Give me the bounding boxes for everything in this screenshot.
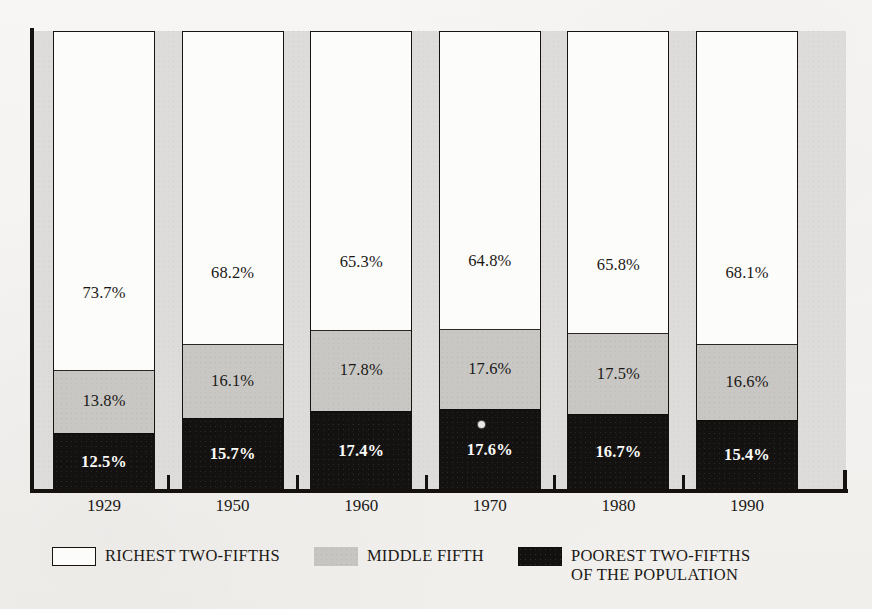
bar-segment-poorest-two-fifths-1990[interactable]: 15.4% <box>697 420 797 490</box>
bar-1980[interactable]: 65.8%17.5%16.7% <box>567 31 669 490</box>
bar-segment-poorest-two-fifths-1929[interactable]: 12.5% <box>54 433 154 490</box>
bar-value-label-richest-two-fifths-1929: 73.7% <box>82 285 125 302</box>
bar-value-label-poorest-two-fifths-1970: 17.6% <box>467 442 513 459</box>
year-label-1970: 1970 <box>450 496 530 516</box>
bar-value-label-poorest-two-fifths-1950: 15.7% <box>210 446 256 463</box>
x-axis-line <box>30 489 848 493</box>
bar-segment-poorest-two-fifths-1950[interactable]: 15.7% <box>183 418 283 490</box>
plot-area: 73.7%13.8%12.5%68.2%16.1%15.7%65.3%17.8%… <box>34 31 846 490</box>
bar-value-label-richest-two-fifths-1970: 64.8% <box>468 253 511 270</box>
bar-1970[interactable]: 64.8%17.6%17.6% <box>439 31 541 490</box>
bar-1929[interactable]: 73.7%13.8%12.5% <box>53 31 155 490</box>
legend-swatch-middle-icon <box>314 547 358 566</box>
bar-segment-middle-fifth-1980[interactable]: 17.5% <box>568 333 668 413</box>
bar-segment-richest-two-fifths-1950[interactable]: 68.2% <box>183 32 283 344</box>
year-label-1950: 1950 <box>193 496 273 516</box>
legend-item-middle-fifth[interactable]: MIDDLE FIFTH <box>314 546 484 566</box>
legend-label-poorest: POOREST TWO-FIFTHS OF THE POPULATION <box>571 546 750 585</box>
bar-value-label-poorest-two-fifths-1990: 15.4% <box>724 447 770 464</box>
bar-1990[interactable]: 68.1%16.6%15.4% <box>696 31 798 490</box>
bar-1950[interactable]: 68.2%16.1%15.7% <box>182 31 284 490</box>
year-label-1960: 1960 <box>321 496 401 516</box>
y-axis-line <box>30 28 34 493</box>
x-axis-tick-5 <box>682 475 685 490</box>
bar-value-label-middle-fifth-1970: 17.6% <box>468 361 511 378</box>
bar-segment-middle-fifth-1929[interactable]: 13.8% <box>54 370 154 433</box>
bar-value-label-middle-fifth-1950: 16.1% <box>211 373 254 390</box>
bar-value-label-middle-fifth-1980: 17.5% <box>597 366 640 383</box>
bar-segment-middle-fifth-1970[interactable]: 17.6% <box>440 329 540 410</box>
bar-segment-richest-two-fifths-1929[interactable]: 73.7% <box>54 32 154 370</box>
bar-value-label-richest-two-fifths-1950: 68.2% <box>211 265 254 282</box>
bar-value-label-middle-fifth-1960: 17.8% <box>340 362 383 379</box>
x-axis-right-end-tick <box>843 470 847 493</box>
bar-segment-richest-two-fifths-1960[interactable]: 65.3% <box>311 32 411 330</box>
legend-label-poorest-line1: POOREST TWO-FIFTHS <box>571 546 750 565</box>
bar-segment-richest-two-fifths-1970[interactable]: 64.8% <box>440 32 540 329</box>
x-axis-tick-4 <box>553 475 556 490</box>
bar-segment-richest-two-fifths-1990[interactable]: 68.1% <box>697 32 797 344</box>
legend-label-richest: RICHEST TWO-FIFTHS <box>105 546 280 565</box>
scan-artifact-speck <box>478 421 485 428</box>
bar-segment-middle-fifth-1990[interactable]: 16.6% <box>697 344 797 420</box>
legend-label-poorest-line2: OF THE POPULATION <box>571 565 750 584</box>
bar-segment-richest-two-fifths-1980[interactable]: 65.8% <box>568 32 668 333</box>
bar-value-label-poorest-two-fifths-1980: 16.7% <box>595 444 641 461</box>
x-axis-tick-3 <box>425 475 428 490</box>
bar-value-label-poorest-two-fifths-1929: 12.5% <box>81 454 127 471</box>
legend-item-poorest-two-fifths[interactable]: POOREST TWO-FIFTHS OF THE POPULATION <box>518 546 750 585</box>
chart-legend: RICHEST TWO-FIFTHS MIDDLE FIFTH POOREST … <box>52 546 750 585</box>
bar-segment-poorest-two-fifths-1960[interactable]: 17.4% <box>311 411 411 490</box>
bar-segment-middle-fifth-1950[interactable]: 16.1% <box>183 344 283 418</box>
bar-1960[interactable]: 65.3%17.8%17.4% <box>310 31 412 490</box>
legend-swatch-poorest-icon <box>518 547 562 566</box>
bar-segment-poorest-two-fifths-1980[interactable]: 16.7% <box>568 414 668 490</box>
chart-page: 73.7%13.8%12.5%68.2%16.1%15.7%65.3%17.8%… <box>0 0 872 609</box>
bar-value-label-middle-fifth-1990: 16.6% <box>725 374 768 391</box>
bar-value-label-richest-two-fifths-1980: 65.8% <box>597 257 640 274</box>
legend-label-middle: MIDDLE FIFTH <box>367 546 484 565</box>
legend-swatch-richest-icon <box>52 547 96 566</box>
bar-segment-poorest-two-fifths-1970[interactable]: 17.6% <box>440 409 540 490</box>
legend-item-richest-two-fifths[interactable]: RICHEST TWO-FIFTHS <box>52 546 280 566</box>
bar-value-label-richest-two-fifths-1990: 68.1% <box>725 265 768 282</box>
year-label-1980: 1980 <box>578 496 658 516</box>
bar-value-label-richest-two-fifths-1960: 65.3% <box>340 254 383 271</box>
bar-value-label-poorest-two-fifths-1960: 17.4% <box>338 443 384 460</box>
year-label-1929: 1929 <box>64 496 144 516</box>
x-axis-tick-1 <box>167 475 170 490</box>
x-axis-tick-2 <box>296 475 299 490</box>
bar-value-label-middle-fifth-1929: 13.8% <box>82 393 125 410</box>
bar-segment-middle-fifth-1960[interactable]: 17.8% <box>311 330 411 411</box>
year-label-1990: 1990 <box>707 496 787 516</box>
